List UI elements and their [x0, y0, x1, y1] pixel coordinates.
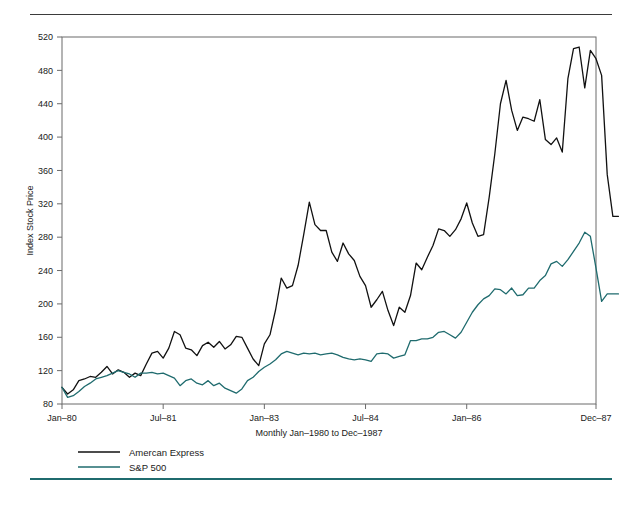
legend-label: Amercan Express [129, 447, 204, 458]
plot-area-frame [62, 37, 596, 404]
y-tick-label: 240 [38, 266, 53, 276]
axis-titles: Index Stock PriceMonthly Jan–1980 to Dec… [25, 185, 383, 438]
x-axis-title: Monthly Jan–1980 to Dec–1987 [255, 428, 382, 438]
y-tick-label: 360 [38, 166, 53, 176]
x-tick-label: Jul–84 [352, 413, 379, 423]
series-layer [62, 47, 618, 397]
y-tick-label: 200 [38, 299, 53, 309]
y-tick-label: 80 [43, 399, 53, 409]
y-axis-title: Index Stock Price [25, 185, 35, 255]
plot-border [62, 37, 596, 404]
y-tick-label: 280 [38, 232, 53, 242]
figure-container: 80120160200240280320360400440480520 Jan–… [0, 0, 642, 509]
y-tick-label: 400 [38, 132, 53, 142]
stock-price-line-chart: 80120160200240280320360400440480520 Jan–… [0, 0, 642, 509]
y-tick-label: 440 [38, 99, 53, 109]
series-line-amercan-express [62, 47, 618, 394]
legend-label: S&P 500 [129, 462, 166, 473]
chart-legend: Amercan ExpressS&P 500 [78, 447, 204, 473]
x-tick-label: Jan–80 [47, 413, 77, 423]
y-axis-ticks: 80120160200240280320360400440480520 [38, 32, 62, 409]
y-tick-label: 320 [38, 199, 53, 209]
y-tick-label: 520 [38, 32, 53, 42]
x-axis-ticks: Jan–80Jul–81Jan–83Jul–84Jan–86Dec–87 [47, 404, 611, 423]
x-tick-label: Jan–86 [452, 413, 482, 423]
x-tick-label: Jan–83 [250, 413, 280, 423]
y-tick-label: 480 [38, 66, 53, 76]
y-tick-label: 160 [38, 332, 53, 342]
x-tick-label: Dec–87 [580, 413, 611, 423]
series-line-s-p-500 [62, 232, 618, 397]
y-tick-label: 120 [38, 366, 53, 376]
x-tick-label: Jul–81 [150, 413, 177, 423]
